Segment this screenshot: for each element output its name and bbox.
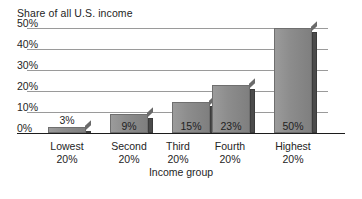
x-axis-title: Income group [0,166,362,178]
bar-value-label: 9% [104,120,154,132]
y-axis-tick-label: 20% [17,80,47,92]
y-axis-tick-label: 40% [17,38,47,50]
y-axis-tick-label: 10% [17,101,47,113]
bar-value-label: 50% [268,120,318,132]
bar-top-face [311,21,317,31]
bar-top-face [147,107,153,117]
bar [274,28,317,133]
bar-chart: Share of all U.S. income 0%10%20%30%40%5… [0,0,362,199]
bar-top-face [249,78,255,88]
y-axis-tick-label: 30% [17,59,47,71]
category-label: Highest20% [253,140,333,165]
x-axis-line [17,133,345,135]
bar-side-face [312,32,317,133]
y-axis-tick-label: 50% [17,17,47,29]
bar-front-face [274,28,312,133]
bar-value-label: 3% [42,114,92,126]
bar-value-label: 23% [206,120,256,132]
category-label-line: Highest [253,140,333,153]
category-label-line: 20% [253,153,333,166]
